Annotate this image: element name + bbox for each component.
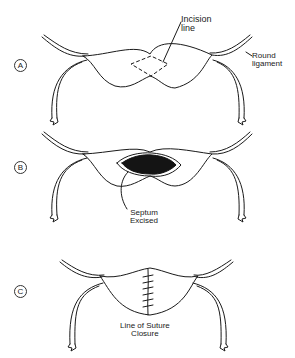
septum-excised-label: Septum Excised <box>130 209 158 225</box>
excised-septum <box>122 155 176 174</box>
incision-line-label: Incision line <box>181 15 212 33</box>
suture-closure-label: Line of Suture Closure <box>120 322 170 338</box>
panel-label-a: A <box>14 59 27 72</box>
panel-label-b: B <box>14 161 27 174</box>
panel-label-c: C <box>14 285 27 298</box>
diagram-canvas <box>0 0 295 358</box>
panel-a-uterus <box>42 22 252 125</box>
round-ligament-label: Round ligament <box>252 52 282 68</box>
